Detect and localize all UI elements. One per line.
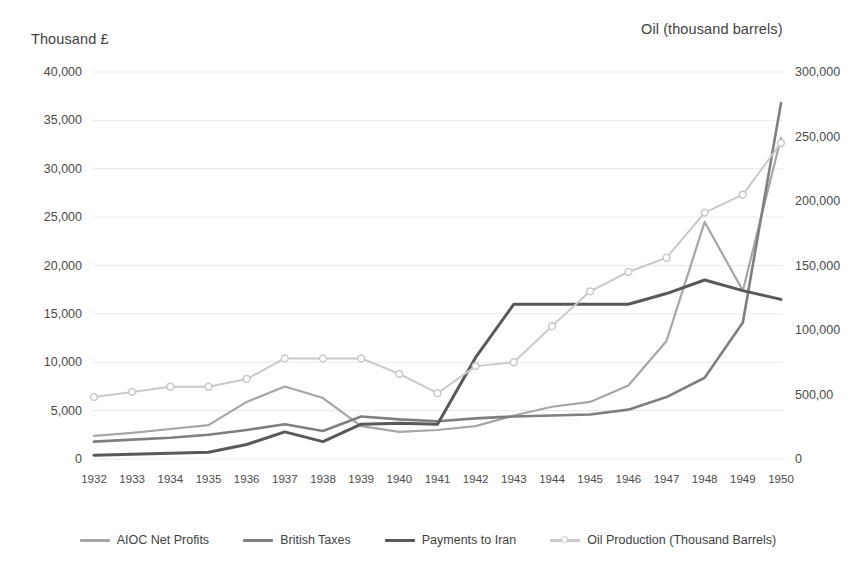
right-axis-tick: 100,000: [795, 324, 840, 337]
left-axis-tick: 20,000: [44, 260, 82, 273]
gridlines: [92, 72, 783, 459]
data-point-marker: [625, 269, 632, 276]
left-axis-title: Thousand £: [31, 31, 109, 47]
left-axis-tick: 0: [75, 453, 82, 466]
series-layer: [91, 103, 785, 455]
left-axis-tick: 40,000: [44, 66, 82, 79]
plot-area: [0, 0, 856, 573]
data-point-marker: [434, 390, 441, 397]
chart-legend: AIOC Net ProfitsBritish TaxesPayments to…: [0, 528, 856, 552]
data-point-marker: [701, 209, 708, 216]
right-axis-tick: 300,000: [795, 66, 840, 79]
right-axis-title: Oil (thousand barrels): [641, 21, 783, 37]
legend-item-2[interactable]: Payments to Iran: [385, 533, 517, 547]
chart-container: Thousand £ Oil (thousand barrels) 05,000…: [0, 0, 856, 573]
legend-label: Oil Production (Thousand Barrels): [587, 533, 776, 547]
series-line-0: [94, 138, 781, 436]
data-point-marker: [129, 389, 136, 396]
series-line-3: [94, 143, 781, 397]
legend-item-3[interactable]: Oil Production (Thousand Barrels): [550, 533, 776, 547]
legend-swatch-icon: [385, 539, 415, 542]
data-point-marker: [396, 370, 403, 377]
data-point-marker: [510, 359, 517, 366]
data-point-marker: [281, 355, 288, 362]
left-axis-tick: 10,000: [44, 356, 82, 369]
legend-label: British Taxes: [280, 533, 351, 547]
legend-swatch-icon: [243, 539, 273, 542]
left-axis-tick: 5,000: [51, 405, 82, 418]
left-axis-tick: 35,000: [44, 114, 82, 127]
left-axis-tick: 30,000: [44, 163, 82, 176]
right-axis-tick: 250,000: [795, 131, 840, 144]
legend-swatch-icon: [80, 539, 110, 542]
data-point-marker: [472, 363, 479, 370]
data-point-marker: [778, 140, 785, 147]
legend-item-1[interactable]: British Taxes: [243, 533, 351, 547]
left-axis-tick: 15,000: [44, 308, 82, 321]
data-point-marker: [320, 355, 327, 362]
right-axis-tick: 0: [795, 453, 802, 466]
right-axis-tick: 500,00: [795, 389, 833, 402]
data-point-marker: [243, 376, 250, 383]
data-point-marker: [91, 394, 98, 401]
data-point-marker: [739, 191, 746, 198]
data-point-marker: [167, 383, 174, 390]
data-point-marker: [358, 355, 365, 362]
left-axis-tick: 25,000: [44, 211, 82, 224]
legend-item-0[interactable]: AIOC Net Profits: [80, 533, 209, 547]
data-point-marker: [587, 288, 594, 295]
right-axis-tick: 200,000: [795, 195, 840, 208]
legend-label: AIOC Net Profits: [117, 533, 209, 547]
x-axis-tick: 1950: [759, 474, 803, 486]
series-line-1: [94, 103, 781, 442]
data-point-marker: [663, 254, 670, 261]
data-point-marker: [549, 323, 556, 330]
legend-label: Payments to Iran: [422, 533, 517, 547]
series-line-2: [94, 280, 781, 455]
legend-swatch-icon: [550, 539, 580, 542]
right-axis-tick: 150,000: [795, 260, 840, 273]
data-point-marker: [205, 383, 212, 390]
